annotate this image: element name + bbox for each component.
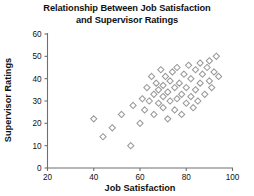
data-point-marker	[169, 69, 175, 75]
data-point-marker	[153, 80, 159, 86]
data-point-marker	[165, 89, 171, 95]
y-tick-label: 30	[32, 97, 42, 106]
data-point-marker	[172, 107, 178, 113]
y-axis-title: Supervisor Ratings	[3, 58, 13, 142]
y-tick-label: 10	[32, 142, 42, 151]
data-point-marker	[199, 71, 205, 77]
data-point-marker	[118, 111, 124, 117]
data-point-marker	[211, 69, 217, 75]
data-point-marker	[167, 78, 173, 84]
data-point-marker	[213, 53, 219, 59]
y-axis-tick-labels: 0102030405060	[32, 30, 42, 173]
data-point-marker	[151, 111, 157, 117]
plot-svg: 0102030405060 20406080100 Job Satisfacti…	[0, 0, 254, 196]
data-point-marker	[216, 73, 222, 79]
y-tick-label: 60	[32, 30, 42, 39]
y-tick-label: 40	[32, 75, 42, 84]
x-tick-label: 40	[89, 173, 99, 182]
data-point-marker	[144, 85, 150, 91]
data-point-marker	[192, 87, 198, 93]
data-point-marker	[139, 96, 145, 102]
data-point-marker	[174, 64, 180, 70]
scatter-chart-figure: Relationship Between Job Satisfaction an…	[0, 0, 254, 196]
data-point-marker	[174, 96, 180, 102]
data-point-marker	[188, 76, 194, 82]
data-point-marker	[181, 71, 187, 77]
data-point-marker	[100, 134, 106, 140]
data-point-marker	[188, 93, 194, 99]
data-point-marker	[204, 64, 210, 70]
x-axis-tick-labels: 20406080100	[43, 173, 240, 182]
data-point-marker	[155, 100, 161, 106]
x-tick-label: 100	[226, 173, 240, 182]
data-point-marker	[148, 73, 154, 79]
data-point-marker	[192, 67, 198, 73]
data-point-marker	[202, 91, 208, 97]
data-point-marker	[176, 80, 182, 86]
data-point-marker	[160, 105, 166, 111]
y-tick-label: 20	[32, 119, 42, 128]
plot-area: 0102030405060 20406080100 Job Satisfacti…	[0, 0, 254, 196]
x-tick-label: 80	[182, 173, 192, 182]
data-point-marker	[130, 102, 136, 108]
data-point-marker	[179, 111, 185, 117]
data-point-marker	[183, 100, 189, 106]
data-point-marker	[142, 107, 148, 113]
data-point-marker	[195, 98, 201, 104]
data-point-marker	[167, 98, 173, 104]
scatter-data-points	[91, 53, 222, 149]
data-point-marker	[146, 98, 152, 104]
data-point-marker	[185, 62, 191, 68]
data-point-marker	[197, 80, 203, 86]
data-point-marker	[179, 91, 185, 97]
data-point-marker	[160, 93, 166, 99]
data-point-marker	[206, 78, 212, 84]
data-point-marker	[155, 87, 161, 93]
data-point-marker	[197, 60, 203, 66]
data-point-marker	[209, 85, 215, 91]
x-tick-label: 60	[135, 173, 145, 182]
data-point-marker	[128, 143, 134, 149]
x-tick-label: 20	[43, 173, 53, 182]
data-point-marker	[162, 73, 168, 79]
data-point-marker	[160, 82, 166, 88]
data-point-marker	[91, 116, 97, 122]
data-point-marker	[158, 67, 164, 73]
x-axis-title: Job Satisfaction	[105, 183, 176, 193]
data-point-marker	[190, 105, 196, 111]
data-point-marker	[172, 85, 178, 91]
data-point-marker	[165, 116, 171, 122]
data-point-marker	[137, 120, 143, 126]
data-point-marker	[151, 91, 157, 97]
data-point-marker	[183, 85, 189, 91]
data-point-marker	[206, 58, 212, 64]
y-tick-label: 50	[32, 52, 42, 61]
y-tick-label: 0	[37, 164, 42, 173]
data-point-marker	[109, 125, 115, 131]
